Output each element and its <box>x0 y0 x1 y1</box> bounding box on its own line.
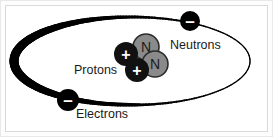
svg-text:+: + <box>132 62 141 79</box>
diagram-canvas: NN ++ –– <box>0 0 273 137</box>
svg-text:N: N <box>150 56 160 72</box>
svg-text:–: – <box>63 91 72 110</box>
atom-diagram-figure: NN ++ –– Neutrons Protons Electrons <box>0 0 273 137</box>
svg-text:+: + <box>121 46 130 63</box>
electrons-label: Electrons <box>76 108 128 121</box>
protons-label: Protons <box>74 64 117 77</box>
neutrons-label: Neutrons <box>170 39 221 52</box>
svg-text:–: – <box>185 12 194 31</box>
